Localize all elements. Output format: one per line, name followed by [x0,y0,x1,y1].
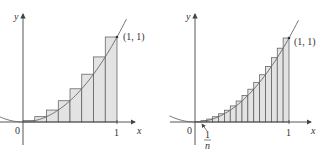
rectangle [266,67,272,122]
fraction-denominator: n [205,140,210,151]
x-one-label: 1 [114,127,119,138]
fraction-numerator: 1 [205,129,210,140]
rectangle [70,89,82,122]
point-label: (1, 1) [123,31,145,43]
rectangle [105,37,117,122]
right-panel: y x 0 1 (1, 1) 1 n [170,11,316,151]
y-axis-label: y [185,11,191,22]
point-label: (1, 1) [294,36,316,48]
origin-label: 0 [15,125,20,136]
y-axis-label: y [13,11,19,22]
point-marker [288,37,291,40]
point-marker [116,36,119,39]
rectangle [58,101,70,122]
rectangle [242,95,248,122]
x-axis-label: x [136,125,142,136]
rectangle [236,101,242,122]
x-axis-label: x [310,125,316,136]
x-one-label: 1 [286,127,291,138]
riemann-rectangles [195,38,289,122]
origin-label: 0 [187,125,192,136]
riemann-rectangles [23,37,117,122]
figure: y x 0 1 (1, 1) y x 0 1 (1, 1) 1 n [0,0,330,155]
rectangle [271,58,277,122]
rectangle [277,48,283,122]
left-panel: y x 0 1 (1, 1) [0,11,145,145]
rectangle [283,38,289,122]
